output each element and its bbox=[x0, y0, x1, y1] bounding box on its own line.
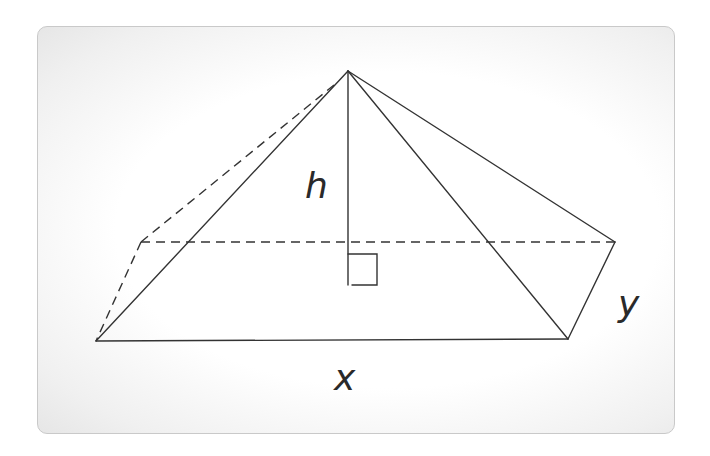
edge-apex-front-left bbox=[96, 71, 348, 341]
edge-right-base bbox=[568, 242, 615, 339]
label-height: h bbox=[305, 165, 328, 206]
edge-apex-front-right bbox=[348, 71, 568, 339]
hidden-edge-left-base bbox=[96, 242, 141, 341]
label-base-width: y bbox=[617, 283, 640, 324]
pyramid-diagram: h x y bbox=[0, 0, 710, 456]
edge-front-base bbox=[96, 339, 568, 341]
right-angle-marker bbox=[348, 254, 377, 285]
hidden-edge-apex-back-left bbox=[141, 85, 334, 242]
label-base-length: x bbox=[333, 357, 356, 398]
edge-apex-back-right bbox=[348, 71, 615, 242]
